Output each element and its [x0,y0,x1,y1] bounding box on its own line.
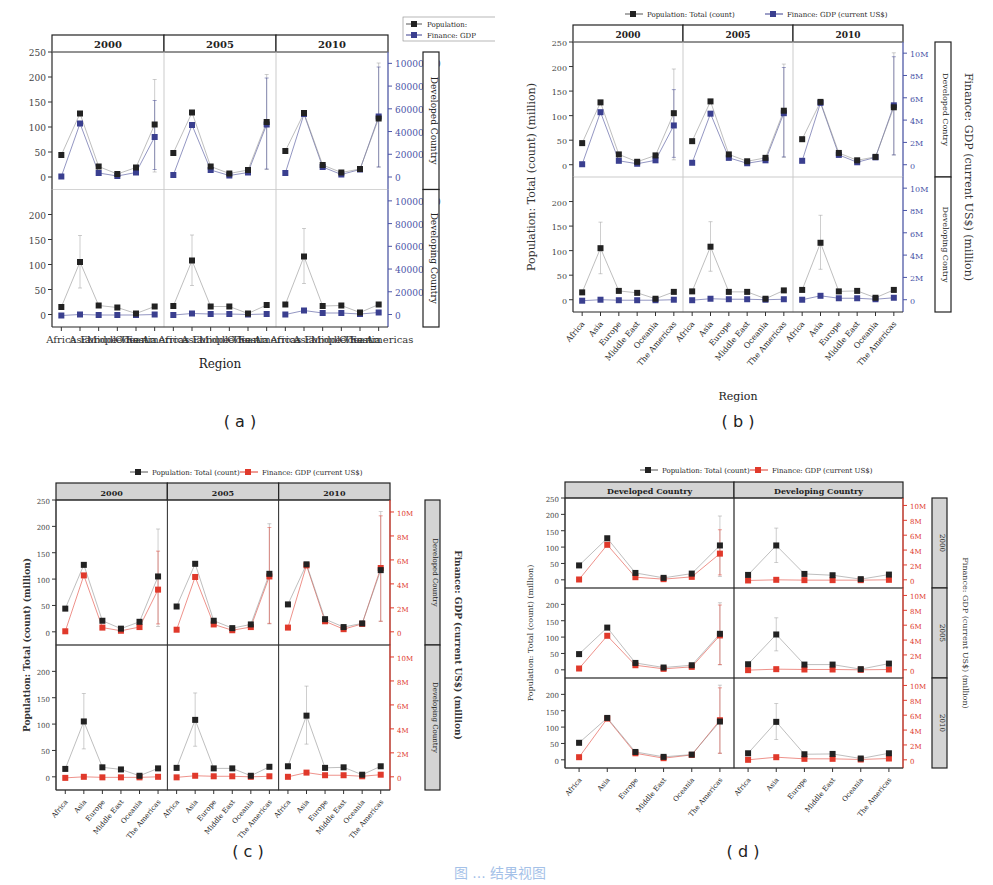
gdp-point [264,311,270,317]
population-point [604,535,610,541]
gdp-point [836,295,842,301]
population-point [170,303,176,309]
gdp-point [773,754,779,760]
gdp-point [886,756,892,762]
svg-text:200: 200 [546,692,559,700]
gdp-point [886,577,892,583]
svg-text:Oceania: Oceania [841,776,866,803]
gdp-point [799,158,805,164]
svg-text:0: 0 [555,758,559,766]
svg-text:Africa: Africa [564,319,587,344]
svg-text:Oceania: Oceania [672,776,697,803]
svg-text:Asia: Asia [295,798,311,815]
gdp-point [773,666,779,672]
population-point [376,302,382,308]
svg-text:10M: 10M [397,655,413,663]
svg-text:200: 200 [29,73,46,83]
svg-text:2010: 2010 [938,714,946,732]
gdp-point [226,311,232,317]
svg-text:2M: 2M [910,139,923,148]
gdp-point [376,310,382,316]
population-point [81,562,87,568]
gdp-point [634,297,640,303]
svg-text:200: 200 [37,669,50,677]
population-point [854,157,860,163]
population-point [155,765,161,771]
gdp-point [799,297,805,303]
population-point [604,625,610,631]
svg-text:6M: 6M [397,558,409,566]
population-point [799,136,805,142]
svg-text:10M: 10M [910,683,926,691]
population-point [661,754,667,760]
svg-text:100: 100 [546,635,559,643]
svg-text:Finance: GDP: Finance: GDP [427,32,476,40]
svg-text:0: 0 [910,297,915,306]
svg-text:100: 100 [37,577,50,585]
svg-text:50: 50 [550,741,559,749]
svg-text:Population: Total (count): Population: Total (count) [647,11,735,19]
gdp-point [58,313,64,319]
population-point [376,116,382,122]
population-point [891,287,897,293]
svg-text:Middle East: Middle East [635,776,669,814]
population-point [773,719,779,725]
gdp-point [689,160,695,166]
gdp-point [891,295,897,301]
svg-text:Asia: Asia [595,776,611,793]
caption-a: ( a ) [200,412,280,431]
population-point [266,571,272,577]
population-point [58,304,64,310]
svg-text:Population: Total (count) (mil: Population: Total (count) (million) [22,558,32,732]
gdp-point [576,576,582,582]
population-point [689,662,695,668]
svg-text:100: 100 [552,248,567,257]
svg-text:2010: 2010 [835,30,860,40]
population-point [632,749,638,755]
population-point [211,765,217,771]
population-point [338,170,344,176]
population-point [114,305,120,311]
gdp-point [152,312,158,318]
population-point [689,752,695,758]
population-point [830,751,836,757]
population-point [320,162,326,168]
population-point [304,561,310,567]
gdp-point [114,312,120,318]
gdp-point [598,109,604,115]
gdp-point [689,297,695,303]
population-point [763,296,769,302]
gdp-point [745,757,751,763]
svg-text:Africa: Africa [674,319,697,344]
svg-text:50: 50 [41,748,50,756]
gdp-point [708,111,714,117]
population-point [801,751,807,757]
gdp-point [170,172,176,178]
population-point [114,171,120,177]
population-point [208,164,214,170]
population-point [192,717,198,723]
svg-text:100: 100 [29,261,46,271]
gdp-point [576,666,582,672]
gdp-point [781,296,787,302]
population-point [708,98,714,104]
population-point [671,110,677,116]
svg-text:2000: 2000 [101,488,124,498]
svg-text:8M: 8M [397,534,409,542]
population-point [781,108,787,114]
svg-text:Africa: Africa [272,798,292,820]
svg-text:Africa: Africa [49,798,69,820]
gdp-point [604,633,610,639]
population-point [854,288,860,294]
svg-text:6M: 6M [910,95,923,104]
gdp-point [285,625,291,631]
population-point [192,561,198,567]
population-point [634,290,640,296]
svg-text:Population: Total (count): Population: Total (count) [152,469,240,477]
svg-text:50: 50 [41,603,50,611]
population-point [137,773,143,779]
population-point [632,570,638,576]
population-point [208,304,214,310]
svg-text:10M: 10M [910,185,928,194]
svg-text:Population: Total (count): Population: Total (count) [662,467,750,475]
